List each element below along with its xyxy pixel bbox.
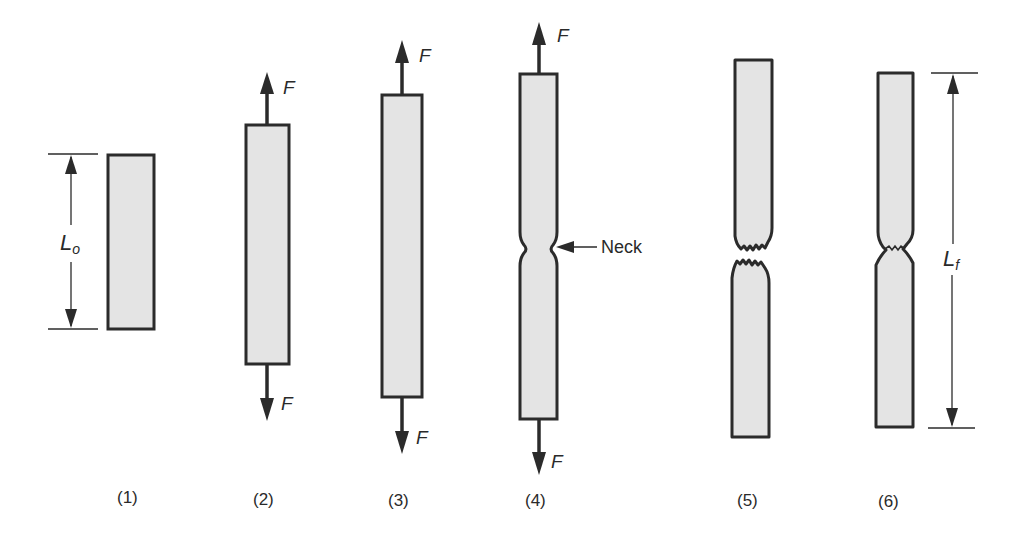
- original-length-label: Lo: [60, 228, 80, 259]
- stage-label-5: (5): [737, 491, 758, 511]
- original-length-symbol: L: [60, 230, 72, 255]
- force-arrow-up-icon: [260, 72, 274, 94]
- force-arrow-up-icon: [532, 22, 546, 45]
- force-label-4-bottom: F: [551, 451, 563, 473]
- original-length-subscript: o: [72, 241, 80, 257]
- stage-label-1: (1): [117, 488, 138, 508]
- specimen-2: [246, 72, 289, 421]
- specimen-5: [732, 60, 772, 437]
- stage-label-3: (3): [388, 491, 409, 511]
- force-arrow-down-icon: [532, 452, 546, 475]
- diagram-canvas: [0, 0, 1027, 541]
- final-length-label: Lf: [943, 244, 959, 275]
- stage-label-6: (6): [878, 492, 899, 512]
- force-label-2-bottom: F: [281, 393, 293, 415]
- final-length-subscript: f: [955, 257, 959, 273]
- final-length-symbol: L: [943, 246, 955, 271]
- specimen-3: [382, 40, 422, 454]
- force-arrow-down-icon: [395, 431, 409, 454]
- specimen-1: [108, 155, 154, 329]
- neck-pointer-arrow-icon: [556, 241, 574, 253]
- force-arrow-down-icon: [260, 398, 274, 421]
- stage-label-2: (2): [253, 490, 274, 510]
- force-label-2-top: F: [283, 77, 295, 99]
- force-label-4-top: F: [557, 25, 569, 47]
- tensile-test-diagram: F F F F F F Neck Lo Lf (1) (2) (3) (4) (…: [0, 0, 1027, 541]
- stage-label-4: (4): [525, 491, 546, 511]
- force-label-3-bottom: F: [416, 427, 428, 449]
- force-label-3-top: F: [419, 45, 431, 67]
- neck-label: Neck: [601, 237, 642, 258]
- specimen-4: [520, 22, 597, 475]
- specimen-6: [876, 73, 913, 427]
- force-arrow-up-icon: [395, 40, 409, 63]
